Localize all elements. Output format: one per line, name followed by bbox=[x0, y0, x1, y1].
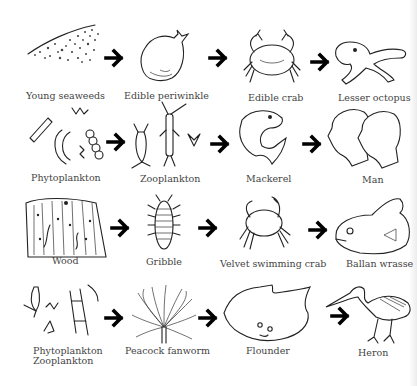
wood-illustration bbox=[0, 195, 110, 257]
right-arrow-icon bbox=[302, 134, 324, 154]
right-arrow-icon bbox=[208, 48, 230, 68]
right-arrow-icon bbox=[198, 218, 220, 238]
label-man: Man bbox=[362, 174, 384, 185]
right-arrow-icon bbox=[106, 132, 128, 152]
phytoplankton-illustration bbox=[0, 100, 110, 172]
label-gribble: Gribble bbox=[146, 256, 182, 267]
right-arrow-icon bbox=[210, 134, 232, 154]
velvet-crab-illustration bbox=[220, 195, 310, 257]
fanworm-illustration bbox=[124, 285, 204, 345]
plankton-illustration bbox=[0, 285, 110, 345]
crab-illustration bbox=[240, 0, 310, 90]
right-arrow-icon bbox=[310, 52, 332, 72]
label-ballan-wrasse: Ballan wrasse bbox=[346, 258, 413, 269]
wrasse-illustration bbox=[328, 195, 413, 257]
label-velvet-swimming-crab: Velvet swimming crab bbox=[220, 258, 326, 269]
label-flounder: Flounder bbox=[246, 345, 290, 356]
right-arrow-icon bbox=[308, 220, 330, 240]
label-peacock-fanworm: Peacock fanworm bbox=[125, 345, 210, 356]
zooplankton-illustration bbox=[128, 100, 208, 172]
label-wood: Wood bbox=[52, 255, 79, 266]
right-arrow-icon bbox=[198, 308, 220, 328]
periwinkle-illustration bbox=[120, 0, 210, 90]
label-mackerel: Mackerel bbox=[246, 173, 291, 184]
label-zooplankton: Zooplankton bbox=[140, 173, 200, 184]
gribble-illustration bbox=[140, 195, 190, 257]
label-phytoplankton: Phytoplankton bbox=[31, 172, 101, 183]
heron-illustration bbox=[320, 275, 417, 345]
right-arrow-icon bbox=[104, 308, 126, 328]
octopus-illustration bbox=[330, 0, 417, 90]
label-heron: Heron bbox=[358, 347, 388, 358]
human-heads-illustration bbox=[322, 100, 417, 172]
mackerel-illustration bbox=[232, 100, 302, 172]
label-zooplankton-row4: Zooplankton bbox=[33, 355, 93, 366]
seaweed-illustration bbox=[0, 0, 110, 90]
right-arrow-icon bbox=[110, 218, 132, 238]
flounder-illustration bbox=[220, 285, 315, 345]
